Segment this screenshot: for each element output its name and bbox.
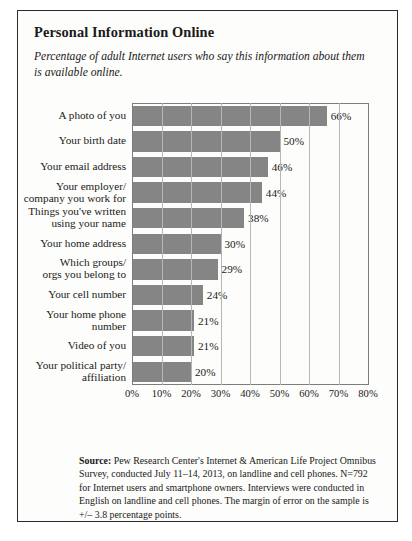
bar-track: 30% xyxy=(132,231,380,257)
bar-value-label: 24% xyxy=(207,289,228,301)
bar-row: Your home phone number21% xyxy=(18,308,398,334)
source-text: Pew Research Center's Internet & America… xyxy=(79,455,376,520)
bar xyxy=(132,259,218,279)
bar-value-label: 20% xyxy=(195,366,216,378)
bar-track: 21% xyxy=(132,308,380,334)
bar-value-label: 29% xyxy=(222,263,243,275)
bar-track: 44% xyxy=(132,180,380,206)
bar xyxy=(132,157,268,177)
bar-row: Your birth date50% xyxy=(18,129,398,155)
category-label: Your cell number xyxy=(18,289,132,301)
x-tick-label: 80% xyxy=(358,388,377,399)
bar-row: A photo of you66% xyxy=(18,103,398,129)
bar-row: Things you've written using your name38% xyxy=(18,205,398,231)
bar-value-label: 44% xyxy=(266,187,287,199)
bar-row: Your home address30% xyxy=(18,231,398,257)
x-axis-ticks: 0%10%20%30%40%50%60%70%80% xyxy=(132,388,368,404)
x-tick-label: 50% xyxy=(270,388,289,399)
bar xyxy=(132,131,280,151)
page-title: Personal Information Online xyxy=(34,25,383,41)
x-tick-label: 20% xyxy=(181,388,200,399)
category-label: Your home address xyxy=(18,238,132,250)
bar xyxy=(132,310,194,330)
x-tick-label: 70% xyxy=(329,388,348,399)
bar xyxy=(132,208,244,228)
bar-row: Video of you21% xyxy=(18,333,398,359)
category-label: Which groups/ orgs you belong to xyxy=(18,257,132,281)
bar-value-label: 38% xyxy=(248,212,269,224)
bar xyxy=(132,106,327,126)
chart-plot-area: A photo of you66%Your birth date50%Your … xyxy=(18,103,398,443)
panel-inner: Personal Information Online Percentage o… xyxy=(18,11,397,521)
bar-value-label: 21% xyxy=(198,315,219,327)
category-label: Your political party/ affiliation xyxy=(18,360,132,384)
chart-subtitle: Percentage of adult Internet users who s… xyxy=(34,49,374,82)
bar-track: 29% xyxy=(132,257,380,283)
bar-track: 66% xyxy=(132,103,380,129)
source-label: Source: xyxy=(79,455,111,466)
bar-track: 50% xyxy=(132,129,380,155)
x-tick-label: 30% xyxy=(211,388,230,399)
bar-row: Your email address46% xyxy=(18,154,398,180)
bar-value-label: 46% xyxy=(272,161,293,173)
x-tick-label: 10% xyxy=(152,388,171,399)
category-label: Your email address xyxy=(18,161,132,173)
bar-value-label: 50% xyxy=(284,135,305,147)
bar-row: Your political party/ affiliation20% xyxy=(18,359,398,385)
bar-track: 21% xyxy=(132,333,380,359)
category-label: Your birth date xyxy=(18,135,132,147)
bar xyxy=(132,362,191,382)
category-label: Things you've written using your name xyxy=(18,206,132,230)
category-label: Your home phone number xyxy=(18,309,132,333)
x-tick-label: 60% xyxy=(299,388,318,399)
category-label: A photo of you xyxy=(18,110,132,122)
bar xyxy=(132,285,203,305)
bar-track: 20% xyxy=(132,359,380,385)
bar-row: Your employer/ company you work for44% xyxy=(18,180,398,206)
bar-value-label: 21% xyxy=(198,340,219,352)
x-tick-label: 0% xyxy=(125,388,139,399)
category-label: Video of you xyxy=(18,340,132,352)
bar-track: 24% xyxy=(132,282,380,308)
bar xyxy=(132,336,194,356)
bar-rows: A photo of you66%Your birth date50%Your … xyxy=(18,103,398,385)
bar-track: 46% xyxy=(132,154,380,180)
bar-row: Which groups/ orgs you belong to29% xyxy=(18,257,398,283)
source-note: Source: Pew Research Center's Internet &… xyxy=(79,454,379,521)
bar xyxy=(132,234,221,254)
bar xyxy=(132,182,262,202)
bar-value-label: 30% xyxy=(225,238,246,250)
clipped-caption xyxy=(24,531,324,541)
bar-track: 38% xyxy=(132,205,380,231)
x-tick-label: 40% xyxy=(240,388,259,399)
chart-panel: Personal Information Online Percentage o… xyxy=(17,10,398,522)
bar-row: Your cell number24% xyxy=(18,282,398,308)
bar-value-label: 66% xyxy=(331,110,352,122)
category-label: Your employer/ company you work for xyxy=(18,181,132,205)
